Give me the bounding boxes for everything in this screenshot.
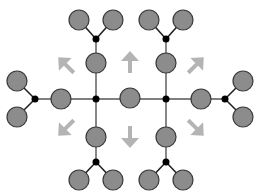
node-top-right [156,53,176,73]
node-top-left [86,53,106,73]
junction-j-left-center [93,96,100,103]
node-left-leaf-top [7,71,27,91]
junction-j-top-left [93,36,100,43]
node-left [51,89,71,109]
node-bottom-left-leaf-b [103,170,123,190]
node-top-right-leaf-b [173,10,193,30]
node-bottom-right-leaf-a [139,170,159,190]
node-top-right-leaf-a [139,10,159,30]
node-right-leaf-top [233,71,253,91]
node-bottom-right [156,127,176,147]
node-top-left-leaf-b [103,10,123,30]
junction-j-right-fork [222,96,229,103]
junction-j-bottom-right [163,159,170,166]
node-right [191,89,211,109]
junction-j-bottom-left [93,159,100,166]
node-right-leaf-bottom [233,107,253,127]
junction-j-right-center [163,96,170,103]
node-bottom-left [86,127,106,147]
junction-j-left-fork [32,96,39,103]
node-center [120,88,140,108]
node-bottom-right-leaf-b [173,170,193,190]
node-left-leaf-bottom [7,107,27,127]
tree-graph-canvas [0,0,261,194]
tree-diagram [0,0,261,194]
junction-j-top-right [163,36,170,43]
node-top-left-leaf-a [69,10,89,30]
node-bottom-left-leaf-a [69,170,89,190]
